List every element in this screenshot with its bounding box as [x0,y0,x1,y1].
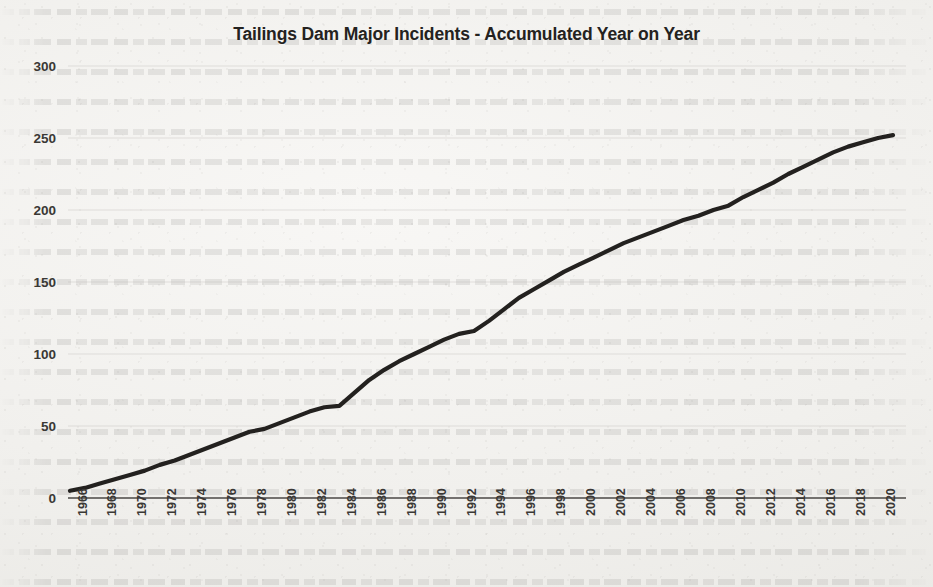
x-tick-label: 1986 [375,488,389,516]
x-tick-label: 1996 [524,488,538,516]
x-tick-label: 1982 [315,488,329,516]
y-tick-label: 300 [0,59,56,74]
y-tick-label: 250 [0,131,56,146]
x-tick-label: 1988 [405,488,419,516]
x-tick-label: 1980 [285,488,299,516]
data-series-layer [70,135,893,491]
x-tick-label: 1998 [554,488,568,516]
x-tick-label: 1972 [165,488,179,516]
x-tick-label: 1994 [494,488,508,516]
x-tick-label: 2002 [614,488,628,516]
x-tick-label: 1992 [465,488,479,516]
x-tick-label: 2008 [704,488,718,516]
x-tick-label: 2010 [734,488,748,516]
x-tick-label: 2012 [764,488,778,516]
x-tick-label: 2014 [794,488,808,516]
x-tick-label: 1974 [195,488,209,516]
scanned-page: Tailings Dam Major Incidents - Accumulat… [0,0,933,587]
x-tick-label: 2000 [584,488,598,516]
x-tick-label: 1976 [225,488,239,516]
x-tick-label: 1984 [345,488,359,516]
x-tick-label: 2016 [824,488,838,516]
y-tick-label: 200 [0,203,56,218]
series-line [70,135,893,491]
x-tick-label: 2006 [674,488,688,516]
y-tick-label: 100 [0,347,56,362]
x-tick-label: 1990 [435,488,449,516]
y-tick-label: 50 [0,419,56,434]
x-tick-label: 1968 [105,488,119,516]
y-tick-label: 150 [0,275,56,290]
x-tick-label: 1970 [135,488,149,516]
x-tick-label: 2004 [644,488,658,516]
x-tick-label: 2018 [854,488,868,516]
y-tick-label: 0 [0,491,56,506]
gridlines [68,66,906,426]
x-tick-label: 1966 [76,488,90,516]
x-tick-label: 2020 [884,488,898,516]
x-tick-label: 1978 [255,488,269,516]
